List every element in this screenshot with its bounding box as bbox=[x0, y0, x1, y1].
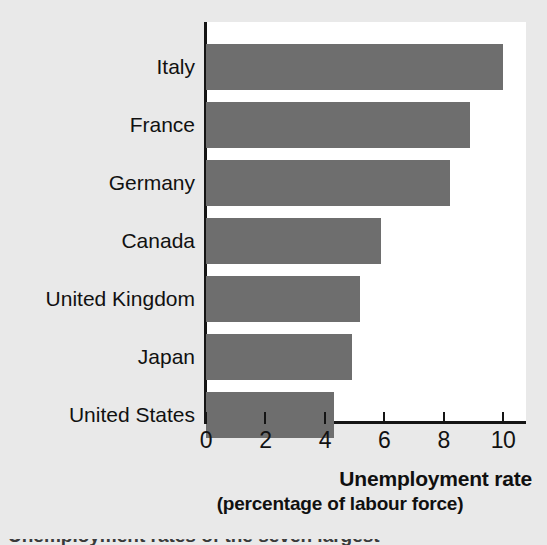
category-label: Germany bbox=[0, 171, 195, 195]
x-axis-title-line-2: (percentage of labour force) bbox=[150, 492, 532, 516]
x-axis-tick-label: 4 bbox=[305, 427, 345, 453]
bar-chart-figure: ItalyFranceGermanyCanadaUnited KingdomJa… bbox=[0, 0, 547, 545]
category-label: Italy bbox=[0, 55, 195, 79]
x-axis-tick bbox=[443, 412, 445, 424]
category-label: Japan bbox=[0, 345, 195, 369]
x-axis-tick-label: 0 bbox=[186, 427, 226, 453]
x-axis-tick bbox=[264, 412, 266, 424]
x-axis-tick bbox=[383, 412, 385, 424]
category-label: Canada bbox=[0, 229, 195, 253]
category-label: France bbox=[0, 113, 195, 137]
x-axis-tick bbox=[324, 412, 326, 424]
bar bbox=[206, 44, 503, 90]
x-axis-tick-label: 6 bbox=[364, 427, 404, 453]
bar bbox=[206, 276, 360, 322]
x-axis-tick bbox=[502, 412, 504, 424]
x-axis-tick bbox=[205, 412, 207, 424]
x-axis-tick-label: 10 bbox=[483, 427, 523, 453]
x-axis-title-line-1: Unemployment rate bbox=[150, 466, 532, 492]
bar bbox=[206, 160, 450, 206]
category-label: United States bbox=[0, 403, 195, 427]
category-label: United Kingdom bbox=[0, 287, 195, 311]
bar bbox=[206, 334, 352, 380]
cropped-caption-text: Unemployment rates of the seven largest bbox=[8, 539, 408, 545]
bar bbox=[206, 102, 470, 148]
cropped-caption: Unemployment rates of the seven largest bbox=[8, 539, 408, 545]
bar bbox=[206, 218, 381, 264]
x-axis-tick-label: 8 bbox=[424, 427, 464, 453]
x-axis-title: Unemployment rate (percentage of labour … bbox=[150, 466, 532, 516]
x-axis-tick-label: 2 bbox=[245, 427, 285, 453]
